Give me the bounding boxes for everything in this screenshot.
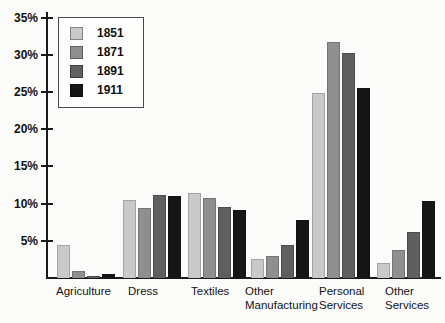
y-tick-mark (41, 91, 53, 93)
x-label-textiles: Textiles (191, 284, 229, 298)
bar-1871-personal-services (327, 42, 340, 278)
bar-1891-other-manufacturing (281, 245, 294, 278)
scanned-chart-page: 35%30%25%20%15%10%5% AgricultureDressTex… (0, 0, 445, 323)
x-label-line: Agriculture (56, 284, 111, 298)
x-label-other-services: OtherServices (385, 284, 429, 312)
bar-1891-textiles (218, 207, 231, 278)
bar-1851-other-manufacturing (251, 259, 264, 278)
legend-swatch-1891 (70, 65, 83, 78)
x-label-line: Other (245, 284, 318, 298)
bar-1891-personal-services (342, 53, 355, 278)
bar-1851-other-services (377, 263, 390, 278)
bar-1851-dress (123, 200, 136, 278)
y-tick-label: 25% (0, 86, 38, 98)
bar-1871-other-manufacturing (266, 256, 279, 278)
y-tick-mark (41, 17, 53, 19)
legend-swatch-1871 (70, 46, 83, 59)
bar-group-dress (123, 195, 182, 278)
bar-chart: 35%30%25%20%15%10%5% AgricultureDressTex… (0, 0, 445, 323)
legend: 1851187118911911 (58, 17, 144, 108)
x-label-line: Personal (319, 284, 364, 298)
y-tick-mark (41, 54, 53, 56)
legend-label-1891: 1891 (97, 65, 124, 78)
bar-1851-agriculture (57, 245, 70, 278)
bar-1871-other-services (392, 250, 405, 278)
bar-1851-textiles (188, 193, 201, 278)
x-label-line: Other (385, 284, 429, 298)
bar-1871-agriculture (72, 271, 85, 278)
bar-1871-dress (138, 208, 151, 278)
legend-label-1871: 1871 (97, 46, 124, 59)
bar-group-agriculture (57, 245, 116, 278)
legend-row-1911: 1911 (59, 81, 143, 100)
bar-group-personal-services (312, 42, 371, 278)
x-label-personal-services: PersonalServices (319, 284, 364, 312)
legend-row-1871: 1871 (59, 43, 143, 62)
y-tick-label: 15% (0, 160, 38, 172)
x-label-line: Services (385, 298, 429, 312)
y-tick-mark (41, 165, 53, 167)
bar-1891-agriculture (87, 276, 100, 278)
bar-1911-agriculture (102, 274, 115, 278)
bar-1911-dress (168, 196, 181, 278)
legend-swatch-1851 (70, 27, 83, 40)
bar-1891-other-services (407, 232, 420, 278)
y-tick-label: 30% (0, 49, 38, 61)
y-tick-mark (41, 203, 53, 205)
y-tick-label: 10% (0, 198, 38, 210)
x-label-line: Manufacturing (245, 298, 318, 312)
x-label-dress: Dress (128, 284, 158, 298)
x-label-line: Dress (128, 284, 158, 298)
legend-label-1911: 1911 (97, 84, 123, 97)
x-label-line: Textiles (191, 284, 229, 298)
y-tick-mark (41, 128, 53, 130)
bar-group-other-manufacturing (251, 220, 310, 278)
x-label-other-manufacturing: OtherManufacturing (245, 284, 318, 312)
y-tick-label: 5% (0, 235, 38, 247)
x-label-agriculture: Agriculture (56, 284, 111, 298)
bar-1911-other-manufacturing (296, 220, 309, 278)
x-label-line: Services (319, 298, 364, 312)
legend-label-1851: 1851 (97, 27, 124, 40)
y-tick-label: 20% (0, 123, 38, 135)
legend-row-1891: 1891 (59, 62, 143, 81)
bar-group-other-services (377, 201, 436, 278)
legend-swatch-1911 (70, 84, 83, 97)
y-tick-mark (41, 240, 53, 242)
bar-group-textiles (188, 193, 247, 278)
bar-1871-textiles (203, 198, 216, 278)
bar-1911-textiles (233, 210, 246, 278)
y-tick-label: 35% (0, 12, 38, 24)
bar-1911-personal-services (357, 88, 370, 278)
bar-1851-personal-services (312, 93, 325, 278)
legend-row-1851: 1851 (59, 24, 143, 43)
bar-1891-dress (153, 195, 166, 278)
bar-1911-other-services (422, 201, 435, 278)
